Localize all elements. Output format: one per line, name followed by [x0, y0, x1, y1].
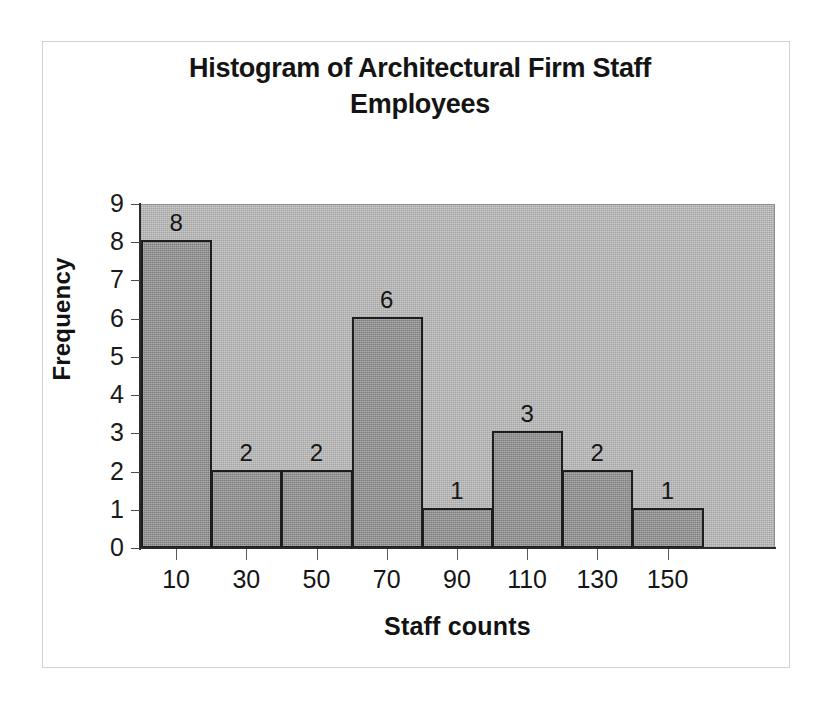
y-axis-label-9: 9: [98, 191, 124, 216]
chart-title: Histogram of Architectural Firm Staff Em…: [90, 50, 750, 122]
x-axis-label-30: 30: [216, 566, 276, 592]
x-axis-tick-90: [457, 549, 458, 560]
y-axis-title: Frequency: [48, 219, 76, 419]
y-axis-label-4: 4: [98, 382, 124, 407]
chart-title-line-2: Employees: [90, 86, 750, 122]
y-axis-label-6: 6: [98, 306, 124, 331]
bar-130: [562, 470, 633, 548]
y-axis-tick-8: [131, 242, 140, 243]
x-axis-tick-50: [317, 549, 318, 560]
y-axis-tick-9: [131, 204, 140, 205]
y-axis-label-0: 0: [98, 535, 124, 560]
bar-50: [281, 470, 352, 548]
bar-10: [141, 240, 212, 548]
y-axis-line: [139, 203, 141, 550]
x-axis-label-50: 50: [287, 566, 347, 592]
y-axis-tick-5: [131, 357, 140, 358]
bar-30: [211, 470, 282, 548]
bar-value-label-50: 2: [297, 441, 337, 465]
x-axis-label-10: 10: [146, 566, 206, 592]
bar-value-label-130: 2: [577, 441, 617, 465]
x-axis-label-110: 110: [497, 566, 557, 592]
y-axis-tick-7: [131, 280, 140, 281]
bar-value-label-150: 1: [648, 479, 688, 503]
x-axis-label-70: 70: [357, 566, 417, 592]
y-axis-label-3: 3: [98, 420, 124, 445]
y-axis-label-1: 1: [98, 497, 124, 522]
bar-value-label-110: 3: [507, 402, 547, 426]
x-axis-tick-150: [668, 549, 669, 560]
bar-150: [632, 508, 703, 548]
chart-title-line-1: Histogram of Architectural Firm Staff: [90, 50, 750, 86]
bar-110: [492, 431, 563, 548]
x-axis-label-90: 90: [427, 566, 487, 592]
bar-value-label-70: 6: [367, 288, 407, 312]
x-axis-tick-110: [527, 549, 528, 560]
y-axis-tick-4: [131, 395, 140, 396]
bar-90: [422, 508, 493, 548]
y-axis-label-7: 7: [98, 267, 124, 292]
x-axis-tick-70: [387, 549, 388, 560]
y-axis-label-8: 8: [98, 229, 124, 254]
y-axis-tick-1: [131, 510, 140, 511]
bar-value-label-30: 2: [226, 441, 266, 465]
y-axis-tick-6: [131, 319, 140, 320]
y-axis-tick-2: [131, 472, 140, 473]
y-axis-tick-3: [131, 433, 140, 434]
y-axis-label-5: 5: [98, 344, 124, 369]
x-axis-label-150: 150: [638, 566, 698, 592]
x-axis-tick-30: [246, 549, 247, 560]
bar-70: [352, 317, 423, 548]
y-axis-label-2: 2: [98, 459, 124, 484]
bar-value-label-10: 8: [156, 211, 196, 235]
y-axis-tick-0: [131, 548, 140, 549]
x-axis-tick-130: [597, 549, 598, 560]
x-axis-title: Staff counts: [140, 612, 775, 641]
x-axis-tick-10: [176, 549, 177, 560]
bar-value-label-90: 1: [437, 479, 477, 503]
x-axis-label-130: 130: [567, 566, 627, 592]
